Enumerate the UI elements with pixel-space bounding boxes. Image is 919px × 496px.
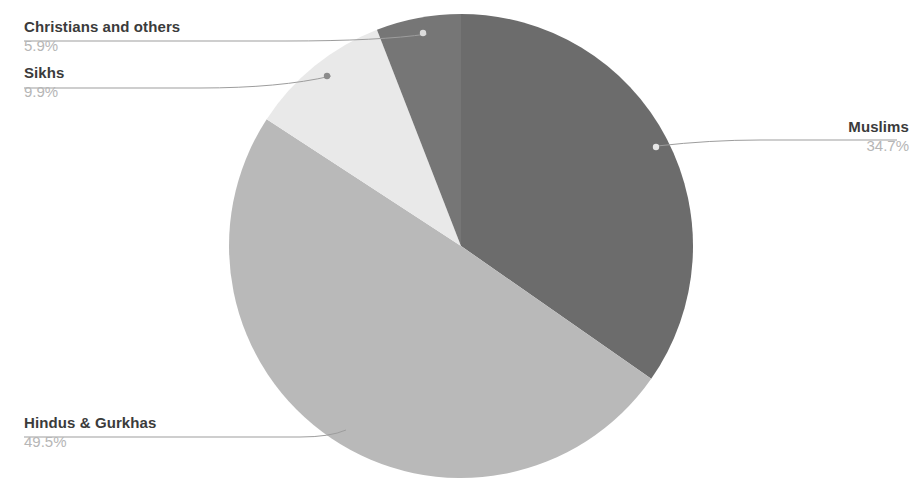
callout-sikhs[interactable]: Sikhs 9.9% xyxy=(24,64,65,100)
callout-hindus-value: 49.5% xyxy=(24,433,156,450)
callout-christians[interactable]: Christians and others 5.9% xyxy=(24,18,180,54)
callout-muslims-title: Muslims xyxy=(848,118,909,135)
leader-dot-muslims xyxy=(653,144,659,150)
callout-hindus-title: Hindus & Gurkhas xyxy=(24,414,156,431)
callout-christians-title: Christians and others xyxy=(24,18,180,35)
leader-dot-sikhs xyxy=(324,73,330,79)
leader-line-sikhs xyxy=(24,76,331,88)
callout-sikhs-value: 9.9% xyxy=(24,83,65,100)
pie-chart: Christians and others 5.9% Sikhs 9.9% Hi… xyxy=(0,0,919,496)
leader-dot-christians xyxy=(420,30,426,36)
pie-slices xyxy=(229,14,693,478)
callout-hindus[interactable]: Hindus & Gurkhas 49.5% xyxy=(24,414,156,450)
callout-christians-value: 5.9% xyxy=(24,37,180,54)
callout-sikhs-title: Sikhs xyxy=(24,64,65,81)
callout-muslims[interactable]: Muslims 34.7% xyxy=(848,118,909,154)
callout-muslims-value: 34.7% xyxy=(848,137,909,154)
